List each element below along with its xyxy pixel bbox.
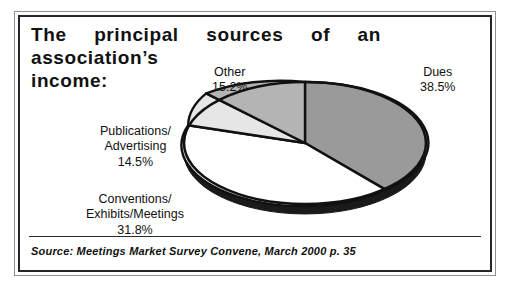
slice-label-conventions-line1: Conventions/ <box>99 192 172 206</box>
figure-panel: The principal sources of an association’… <box>0 0 510 289</box>
pie-chart: Other 15.2% Dues 38.5% Publications/ Adv… <box>20 17 490 235</box>
figure-content: The principal sources of an association’… <box>20 17 490 270</box>
slice-label-conventions-line2: Exhibits/Meetings <box>86 207 184 222</box>
slice-label-dues: Dues 38.5% <box>420 65 455 96</box>
slice-label-dues-name: Dues <box>423 65 452 79</box>
slice-label-other-name: Other <box>214 65 245 79</box>
source-note: Source: Meetings Market Survey Convene, … <box>31 245 356 257</box>
slice-label-publications: Publications/ Advertising 14.5% <box>100 124 171 170</box>
slice-label-other: Other 15.2% <box>212 65 247 96</box>
slice-label-conventions: Conventions/ Exhibits/Meetings 31.8% <box>86 192 184 238</box>
slice-label-publications-line1: Publications/ <box>100 124 171 138</box>
slice-label-publications-pct: 14.5% <box>100 155 171 170</box>
slice-label-publications-line2: Advertising <box>100 139 171 154</box>
source-divider <box>29 236 481 237</box>
slice-label-dues-pct: 38.5% <box>420 80 455 95</box>
slice-label-other-pct: 15.2% <box>212 80 247 95</box>
